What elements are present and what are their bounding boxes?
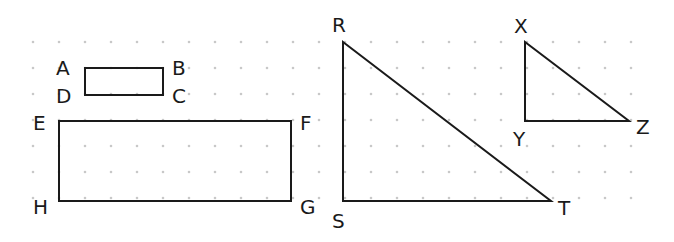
grid-dot [396, 67, 399, 70]
grid-dot [240, 93, 243, 96]
grid-dot [292, 171, 295, 174]
grid-dot [370, 171, 373, 174]
grid-dot [84, 41, 87, 44]
grid-dot [630, 67, 633, 70]
grid-dot [474, 171, 477, 174]
grid-dot [448, 93, 451, 96]
grid-dot [188, 145, 191, 148]
vertex-label-y: Y [512, 127, 526, 151]
grid-dot [474, 67, 477, 70]
grid-dot [110, 41, 113, 44]
grid-dot [110, 145, 113, 148]
grid-dot [162, 41, 165, 44]
grid-dot [370, 93, 373, 96]
vertex-label-c: C [172, 84, 186, 108]
grid-dot [578, 171, 581, 174]
grid-dot [552, 145, 555, 148]
grid-dot [448, 171, 451, 174]
grid-dot [266, 197, 269, 200]
vertex-label-e: E [33, 111, 46, 135]
grid-dot [396, 171, 399, 174]
vertex-label-s: S [332, 209, 345, 233]
grid-dot [396, 119, 399, 122]
grid-dot [422, 119, 425, 122]
grid-dot [552, 93, 555, 96]
grid-dot [266, 145, 269, 148]
grid-dot [162, 197, 165, 200]
grid-dot [266, 41, 269, 44]
grid-dot [500, 93, 503, 96]
grid-dot [526, 145, 529, 148]
grid-dot [526, 171, 529, 174]
grid-dot [318, 93, 321, 96]
grid-dot [526, 67, 529, 70]
grid-dot [474, 145, 477, 148]
grid-dot [318, 119, 321, 122]
grid-dot [396, 41, 399, 44]
grid-dot [292, 145, 295, 148]
grid-dot [604, 145, 607, 148]
grid-dot [240, 41, 243, 44]
grid-dot [240, 171, 243, 174]
grid-dot [500, 171, 503, 174]
rectangle-abcd: ABCD [56, 56, 186, 108]
vertex-label-f: F [300, 111, 312, 135]
grid-dot [370, 119, 373, 122]
grid-dot [188, 67, 191, 70]
grid-dot [292, 119, 295, 122]
grid-dot [578, 93, 581, 96]
grid-dot [474, 93, 477, 96]
grid-dot [136, 145, 139, 148]
grid-dot [214, 67, 217, 70]
grid-dot [344, 171, 347, 174]
grid-dot [474, 119, 477, 122]
grid-dot [292, 197, 295, 200]
grid-dot [422, 171, 425, 174]
grid-dot [292, 41, 295, 44]
vertex-label-z: Z [636, 115, 650, 139]
grid-dot [266, 171, 269, 174]
grid-dot [318, 171, 321, 174]
grid-dot [162, 145, 165, 148]
grid-dot [84, 197, 87, 200]
grid-dot [292, 93, 295, 96]
grid-dot [110, 197, 113, 200]
grid-dot [370, 197, 373, 200]
grid-dot [318, 145, 321, 148]
grid-dot [318, 197, 321, 200]
grid-dot [604, 67, 607, 70]
grid-dot [448, 67, 451, 70]
grid-dot [84, 171, 87, 174]
grid-dot [344, 67, 347, 70]
vertex-label-h: H [33, 195, 48, 219]
vertex-label-d: D [56, 84, 71, 108]
grid-dot [578, 41, 581, 44]
grid-dot [110, 171, 113, 174]
grid-dot [500, 119, 503, 122]
grid-dot [318, 41, 321, 44]
grid-dot [422, 145, 425, 148]
grid-dot [552, 67, 555, 70]
grid-dot [604, 197, 607, 200]
grid-dot [292, 67, 295, 70]
grid-dot [500, 197, 503, 200]
grid-dot [448, 119, 451, 122]
grid-dot [136, 41, 139, 44]
grid-dot [604, 171, 607, 174]
grid-dot [448, 197, 451, 200]
grid-dot [578, 67, 581, 70]
grid-dot [448, 41, 451, 44]
grid-dot [84, 145, 87, 148]
grid-dot [500, 41, 503, 44]
grid-dot [604, 93, 607, 96]
grid-dot [630, 197, 633, 200]
grid-dot [474, 41, 477, 44]
grid-dot [370, 41, 373, 44]
rectangle-efgh: EFGH [33, 111, 316, 219]
grid-dot [188, 171, 191, 174]
vertex-label-t: T [557, 196, 571, 220]
grid-dot [630, 41, 633, 44]
grid-dot [344, 145, 347, 148]
grid-dot [240, 67, 243, 70]
grid-dot [214, 93, 217, 96]
